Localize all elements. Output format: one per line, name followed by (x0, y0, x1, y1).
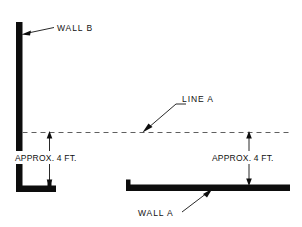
dimension-right: APPROX. 4 FT. (211, 131, 285, 186)
wall-b-leader-arrowhead (22, 31, 32, 36)
wall-a-leader-line (182, 193, 207, 212)
wall-a-leader (182, 189, 213, 213)
dimension-left-label: APPROX. 4 FT. (15, 153, 77, 163)
dimension-left: APPROX. 4 FT. (14, 131, 88, 187)
wall-a-label: WALL A (138, 208, 173, 218)
dimension-right-label: APPROX. 4 FT. (212, 153, 274, 163)
wall-a-shape (126, 180, 290, 192)
wall-b-vertical-shaft (16, 22, 23, 192)
wall-b-leader-line (28, 28, 54, 34)
wall-b-label: WALL B (57, 23, 93, 33)
wall-a-horizontal-bar (126, 185, 290, 192)
wall-elevation-diagram: WALL B LINE A WALL A APPROX. 4 FT. (0, 0, 302, 227)
wall-b-leader (22, 28, 55, 36)
wall-b-shape (16, 22, 56, 192)
line-a-label: LINE A (182, 94, 214, 104)
line-a-leader-line (148, 104, 176, 128)
line-a-leader (143, 104, 187, 133)
wall-a-end-cap (126, 180, 131, 192)
